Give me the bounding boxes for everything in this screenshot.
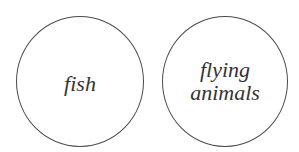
label-line: flying xyxy=(190,58,260,81)
label-line: fish xyxy=(64,71,96,96)
label-line: animals xyxy=(190,81,260,104)
label-fish: fish xyxy=(64,72,96,95)
circle-fish: fish xyxy=(16,16,144,147)
circle-flying-animals: flying animals xyxy=(162,16,288,147)
label-flying-animals: flying animals xyxy=(190,58,260,104)
